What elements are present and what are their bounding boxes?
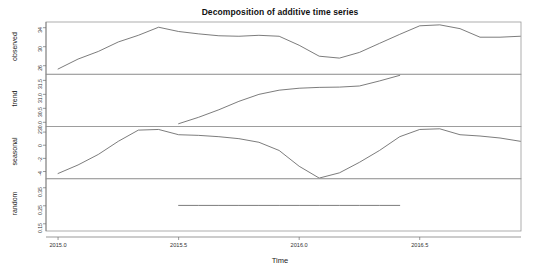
panel-frame-trend	[46, 74, 521, 126]
panel-label-random: random	[11, 177, 18, 229]
x-tick-label: 2016.5	[400, 242, 440, 248]
series-line-observed	[58, 25, 520, 69]
panel-label-observed: observed	[11, 21, 18, 73]
y-tick-label-observed: 34	[37, 27, 43, 55]
y-tick-label-trend: 31.5	[37, 79, 43, 107]
panel-frame-seasonal	[46, 127, 521, 179]
panel-frame-random	[46, 179, 521, 231]
y-tick-label-random: 0.35	[37, 187, 43, 215]
panel-label-trend: trend	[11, 73, 18, 125]
x-tick-label: 2015.0	[38, 242, 78, 248]
y-tick-label-seasonal: 2	[37, 131, 43, 159]
panel-label-seasonal: seasonal	[11, 125, 18, 177]
plot-canvas	[0, 0, 560, 269]
series-line-trend	[179, 75, 400, 123]
series-line-seasonal	[58, 129, 520, 178]
x-axis-title: Time	[0, 256, 560, 265]
decomposition-plot: Decomposition of additive time series 26…	[0, 0, 560, 269]
x-tick-label: 2015.5	[159, 242, 199, 248]
panel-frame-observed	[46, 22, 521, 74]
x-tick-label: 2016.0	[279, 242, 319, 248]
